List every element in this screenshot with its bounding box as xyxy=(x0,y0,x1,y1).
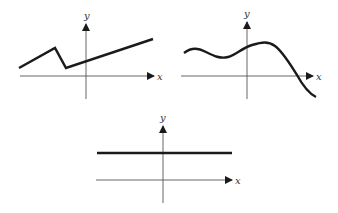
x-axis-label: x xyxy=(235,175,241,186)
function-curve xyxy=(184,43,316,98)
graph-1: x y xyxy=(19,10,163,99)
y-axis-label: y xyxy=(159,112,166,123)
x-axis-label: x xyxy=(316,71,322,82)
x-axis-label: x xyxy=(157,71,163,82)
y-axis-label: y xyxy=(243,8,250,19)
graph-2: x y xyxy=(181,8,322,99)
y-axis-label: y xyxy=(83,10,90,21)
graph-3: x y xyxy=(96,112,241,203)
function-graphs-figure: x y x y x y xyxy=(0,0,338,213)
